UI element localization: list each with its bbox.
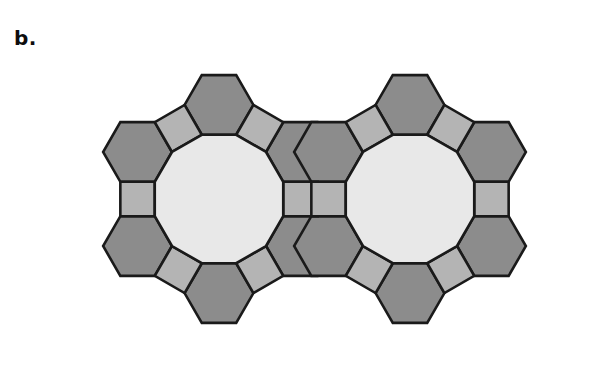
panel-label: b. [14,28,37,48]
dodecagon-tile [155,135,283,263]
square-tile [311,182,345,216]
square-tile [120,182,154,216]
dodecagon-tile [346,135,474,263]
tiling-figure: b. [0,0,590,367]
tiling-diagram [0,0,590,367]
square-tile [474,182,508,216]
